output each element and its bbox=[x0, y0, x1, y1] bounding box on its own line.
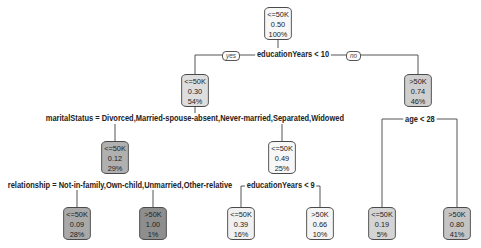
node-prob: 0.19 bbox=[369, 220, 395, 230]
node-prob: 0.30 bbox=[182, 87, 208, 97]
node-prob: 0.74 bbox=[405, 87, 431, 97]
node-pct: 25% bbox=[269, 164, 295, 174]
node-prob: 0.39 bbox=[228, 220, 254, 230]
node-prob: 0.66 bbox=[307, 220, 333, 230]
node-prob: 0.09 bbox=[64, 220, 90, 230]
leaf-node-11[interactable]: >50K 0.66 10% bbox=[306, 207, 334, 240]
node-pct: 10% bbox=[307, 230, 333, 240]
leaf-node-10[interactable]: <=50K 0.39 16% bbox=[227, 207, 255, 240]
leaf-node-8[interactable]: <=50K 0.09 28% bbox=[63, 207, 91, 240]
node-class: >50K bbox=[444, 210, 470, 220]
node-class: <=50K bbox=[269, 144, 295, 154]
node-pct: 41% bbox=[444, 230, 470, 240]
node-prob: 0.49 bbox=[269, 154, 295, 164]
leaf-node-9[interactable]: >50K 1.00 1% bbox=[139, 207, 167, 240]
node-3[interactable]: >50K 0.74 46% bbox=[404, 74, 432, 107]
node-class: >50K bbox=[405, 77, 431, 87]
split-root: educationYears < 10 bbox=[255, 49, 331, 59]
node-pct: 29% bbox=[102, 164, 128, 174]
node-pct: 16% bbox=[228, 230, 254, 240]
node-prob: 1.00 bbox=[140, 220, 166, 230]
node-5[interactable]: <=50K 0.49 25% bbox=[268, 141, 296, 174]
node-pct: 5% bbox=[369, 230, 395, 240]
node-4[interactable]: <=50K 0.12 29% bbox=[101, 141, 129, 174]
split-age: age < 28 bbox=[403, 114, 436, 124]
split-marital-status: maritalStatus = Divorced,Married-spouse-… bbox=[44, 113, 346, 123]
node-class: <=50K bbox=[369, 210, 395, 220]
node-2[interactable]: <=50K 0.30 54% bbox=[181, 74, 209, 107]
node-class: <=50K bbox=[182, 77, 208, 87]
node-class: >50K bbox=[140, 210, 166, 220]
node-prob: 0.12 bbox=[102, 154, 128, 164]
node-class: <=50K bbox=[102, 144, 128, 154]
node-class: <=50K bbox=[265, 10, 291, 20]
node-pct: 28% bbox=[64, 230, 90, 240]
leaf-node-7[interactable]: >50K 0.80 41% bbox=[443, 207, 471, 240]
leaf-node-6[interactable]: <=50K 0.19 5% bbox=[368, 207, 396, 240]
node-class: <=50K bbox=[228, 210, 254, 220]
node-pct: 100% bbox=[265, 30, 291, 40]
node-root[interactable]: <=50K 0.50 100% bbox=[264, 7, 292, 40]
yes-label: yes bbox=[222, 51, 240, 61]
node-pct: 1% bbox=[140, 230, 166, 240]
split-relationship: relationship = Not-in-family,Own-child,U… bbox=[6, 180, 234, 190]
node-pct: 54% bbox=[182, 97, 208, 107]
node-prob: 0.80 bbox=[444, 220, 470, 230]
decision-tree: educationYears < 10 yes no maritalStatus… bbox=[0, 0, 481, 248]
node-class: >50K bbox=[307, 210, 333, 220]
node-class: <=50K bbox=[64, 210, 90, 220]
node-prob: 0.50 bbox=[265, 20, 291, 30]
no-label: no bbox=[346, 51, 361, 61]
split-education-years-9: educationYears < 9 bbox=[245, 180, 317, 190]
node-pct: 46% bbox=[405, 97, 431, 107]
